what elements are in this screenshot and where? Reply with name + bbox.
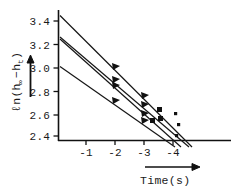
series-run-3 <box>60 39 181 147</box>
y-tick-label-3.4: 3.4 <box>30 16 51 28</box>
x-tick-label--3: -3 <box>137 147 151 159</box>
y-tick-label-3.2: 3.2 <box>30 40 50 52</box>
y-tick-label-2.4: 2.4 <box>30 131 51 143</box>
x-axis-arrow-head-icon <box>192 164 200 171</box>
series-run-2-marker-3 <box>158 116 163 121</box>
x-axis-title-group: Time(s) <box>140 164 200 188</box>
stray-data-points <box>174 112 180 137</box>
x-tick-label--4: -4 <box>166 147 180 159</box>
y-tick-label-2.8: 2.8 <box>30 87 50 99</box>
y-axis-arrow-head-icon <box>27 55 34 63</box>
y-axis-title-prefix: ℓn(h <box>10 83 23 112</box>
x-axis-title: Time(s) <box>140 174 190 187</box>
series-run-1 <box>60 16 192 148</box>
series-run-1-marker-2 <box>141 92 149 99</box>
series-run-1-marker-1 <box>112 63 120 70</box>
series-run-1-marker-3 <box>157 107 162 112</box>
series-run-2-marker-1 <box>112 76 120 83</box>
x-axis-tick-labels: -1 -2 -3 -4 <box>79 147 180 159</box>
y-tick-label-2.6: 2.6 <box>30 110 50 122</box>
stray-point-3 <box>175 134 178 137</box>
chart-figure: 3.4 3.2 3.0 2.8 2.6 2.4 -1 -2 -3 -4 <box>0 0 244 188</box>
series-run-3-fit-line <box>60 39 181 147</box>
series-run-3-marker-1 <box>112 82 120 89</box>
stray-point-1 <box>174 112 177 115</box>
y-axis-title-mid: −h <box>10 64 23 78</box>
x-tick-label--2: -2 <box>108 147 122 159</box>
series-run-1-fit-line <box>60 16 192 148</box>
series-run-3-marker-3 <box>150 118 155 123</box>
y-axis-tick-labels: 3.4 3.2 3.0 2.8 2.6 2.4 <box>30 16 51 143</box>
x-tick-label--1: -1 <box>79 147 93 159</box>
series-run-2 <box>60 37 189 147</box>
y-axis-title-suffix: ) <box>10 52 23 59</box>
stray-point-2 <box>177 123 180 126</box>
y-axis-title-sub-infinity: ∞ <box>16 80 25 85</box>
series-run-2-fit-line <box>60 37 189 147</box>
series-run-2-marker-2 <box>141 101 149 108</box>
kinetics-line-chart: 3.4 3.2 3.0 2.8 2.6 2.4 -1 -2 -3 -4 <box>0 0 244 188</box>
y-axis-title-group: ℓn(h ∞ −h t ) <box>10 52 34 112</box>
y-tick-label-3.0: 3.0 <box>30 63 50 75</box>
series-run-4-marker-1 <box>112 97 120 104</box>
series-run-3-marker-2 <box>141 110 149 117</box>
y-axis-title: ℓn(h ∞ −h t ) <box>10 52 25 112</box>
